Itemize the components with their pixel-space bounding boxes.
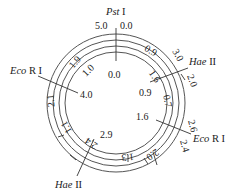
- pos-label-3-0: 3.0: [170, 47, 186, 63]
- seg-label-2-4-ring: 2.4: [83, 135, 100, 151]
- pos-label-2-4-right: 2.4: [178, 138, 192, 153]
- tick-ring4-lower-left: [70, 155, 76, 160]
- pos-label-0-0-top: 0.0: [120, 20, 133, 31]
- pos-label-2-6: 2.6: [186, 118, 200, 133]
- position-labels: 5.0 0.0 0.0 3.0 2.0 0.9 2.6 2.4 1.6 2.9 …: [80, 20, 200, 153]
- pos-label-2-0-top: 2.0: [185, 73, 200, 89]
- seg-label-0-9-ring: 0.9: [143, 42, 159, 58]
- ring-1-inner: [65, 52, 167, 154]
- segment-labels: 1.9 1.0 0.9 1.6 0.7 2.1 1.1 2.4 1.3 2.0: [44, 42, 174, 163]
- enzyme-label-ecor1-left: Eco R I: [9, 65, 43, 76]
- seg-label-1-9: 1.9: [66, 54, 82, 71]
- pos-label-0-0-inner: 0.0: [108, 69, 121, 80]
- plasmid-restriction-map: Pst I Hae II Eco R I Hae II Eco R I 5.0 …: [0, 0, 238, 196]
- pos-label-0-9-inner: 0.9: [139, 87, 152, 98]
- seg-label-0-7: 0.7: [161, 94, 174, 108]
- ring-ticks: [58, 74, 185, 165]
- seg-label-1-6-ring: 1.6: [147, 68, 163, 85]
- pos-label-4-0: 4.0: [80, 89, 93, 100]
- pos-label-2-9: 2.9: [100, 129, 113, 140]
- tick-ring4-hae-top: [181, 74, 185, 80]
- seg-label-1-0: 1.0: [80, 62, 97, 79]
- enzyme-label-hae2-bottom: Hae II: [54, 179, 83, 190]
- enzyme-label-ecor1-right: Eco R I: [192, 133, 226, 144]
- enzyme-label-hae2-top: Hae II: [188, 56, 217, 67]
- seg-label-1-3: 1.3: [121, 152, 134, 164]
- enzyme-label-pst1: Pst I: [105, 6, 126, 17]
- seg-label-2-1: 2.1: [44, 94, 56, 107]
- pos-label-5-0: 5.0: [95, 20, 108, 31]
- pos-label-1-6-inner: 1.6: [136, 111, 149, 122]
